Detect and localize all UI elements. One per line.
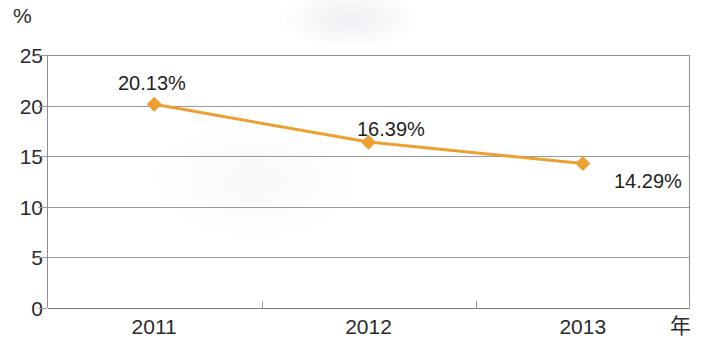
y-tick-label-15: 15 [3, 146, 43, 167]
x-axis-baseline [48, 308, 689, 309]
gridline-25 [48, 55, 689, 56]
x-axis-unit-label: 年 [670, 315, 691, 336]
y-tick-mark-0 [38, 308, 47, 309]
y-tick-label-25: 25 [3, 45, 43, 66]
x-tick-label-2011: 2011 [132, 316, 177, 337]
x-tick-mark-1 [262, 301, 263, 309]
y-tick-label-5: 5 [3, 247, 43, 268]
gridline-20 [48, 106, 689, 107]
line-chart: % 年 25 20 15 10 5 0 20.13% 16.39% 14.29%… [0, 0, 702, 345]
y-axis-tick-labels: 25 20 15 10 5 0 [0, 0, 43, 345]
x-tick-mark-3 [689, 301, 690, 309]
scan-artifact [285, 0, 415, 46]
y-tick-mark-5 [38, 257, 47, 258]
y-tick-label-20: 20 [3, 95, 43, 116]
x-tick-mark-2 [476, 301, 477, 309]
y-tick-mark-20 [38, 106, 47, 107]
gridline-10 [48, 207, 689, 208]
y-tick-mark-15 [38, 156, 47, 157]
x-tick-label-2012: 2012 [345, 316, 392, 337]
y-tick-label-10: 10 [3, 196, 43, 217]
data-label-2012: 16.39% [357, 119, 425, 139]
y-tick-mark-25 [38, 55, 47, 56]
x-tick-label-2013: 2013 [559, 316, 606, 337]
gridline-5 [48, 257, 689, 258]
data-label-2013: 14.29% [614, 171, 682, 191]
y-tick-mark-10 [38, 207, 47, 208]
y-tick-label-0: 0 [3, 298, 43, 319]
gridline-15 [48, 156, 689, 157]
data-label-2011: 20.13% [118, 73, 186, 93]
